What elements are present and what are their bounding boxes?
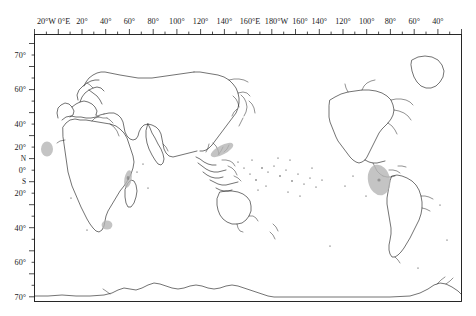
coastline-greenland	[411, 56, 444, 88]
top-tick-label: 40°	[432, 17, 443, 26]
top-tick-label: 140°	[312, 17, 328, 26]
left-tick-label: 20°	[15, 143, 26, 152]
top-tick-label: 60°	[124, 17, 135, 26]
left-tick-label: 70°	[15, 293, 26, 302]
map-svg: 20°W 0°E 20° 40° 60° 80° 100° 120° 140° …	[0, 0, 476, 316]
left-tick-label: 40°	[15, 224, 26, 233]
top-tick-label: 60°	[408, 17, 419, 26]
marker-core-eastern-equatorial-pacific	[377, 178, 380, 181]
top-axis-ticks	[35, 29, 462, 35]
coastline-antarctica	[34, 277, 462, 297]
top-tick-label: 160°E	[240, 17, 261, 26]
top-tick-label: 120°	[335, 17, 351, 26]
coastline-new-zealand	[270, 224, 278, 239]
left-tick-label: 70°	[15, 51, 26, 60]
map-frame	[35, 35, 462, 302]
left-axis-ticks	[29, 44, 35, 297]
marker-south-of-africa	[102, 220, 113, 229]
left-tick-label: 0°	[19, 166, 26, 175]
top-tick-label: 80°	[385, 17, 396, 26]
top-tick-label: 40°	[100, 17, 111, 26]
coastline-europe	[57, 72, 194, 123]
left-tick-label: 60°	[15, 258, 26, 267]
marker-eastern-tropical-atlantic	[41, 141, 53, 156]
top-tick-label: 100°	[169, 17, 185, 26]
left-tick-label: 20°	[15, 189, 26, 198]
coastline-south-america	[387, 175, 433, 263]
top-tick-label: 20°	[76, 17, 87, 26]
top-axis-labels: 20°W 0°E 20° 40° 60° 80° 100° 120° 140° …	[37, 17, 444, 26]
left-axis-labels: 70° 60° 40° 20° N 0° S 20° 40° 60° 70°	[15, 51, 27, 302]
marker-core-mozambique-channel	[127, 176, 130, 180]
south-hemisphere-mark: S	[22, 177, 26, 186]
top-tick-label: 160°	[292, 17, 308, 26]
data-marker-group	[41, 140, 393, 230]
left-tick-label: 60°	[15, 85, 26, 94]
coastline-japan	[232, 95, 255, 126]
world-map-figure: 20°W 0°E 20° 40° 60° 80° 100° 120° 140° …	[0, 0, 476, 316]
top-tick-label: 180°W	[265, 17, 289, 26]
coastline-india	[146, 124, 164, 165]
top-tick-label: 0°E	[58, 17, 70, 26]
coastline-africa	[57, 117, 134, 232]
top-tick-label: 140°	[217, 17, 233, 26]
north-hemisphere-mark: N	[21, 154, 27, 163]
top-tick-label: 80°	[147, 17, 158, 26]
top-tick-label: 100°	[359, 17, 375, 26]
coastline-australia	[217, 191, 258, 232]
top-tick-label: 20°W	[37, 17, 56, 26]
top-tick-label: 120°	[193, 17, 209, 26]
left-tick-label: 40°	[15, 120, 26, 129]
coastline-north-america	[329, 80, 413, 177]
